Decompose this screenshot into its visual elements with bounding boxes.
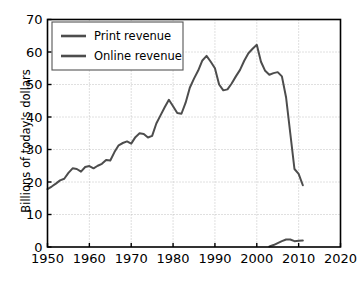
x-tick-label: 2020 xyxy=(324,251,357,266)
chart-legend[interactable]: Print revenueOnline revenue xyxy=(52,22,183,70)
y-tick-label: 40 xyxy=(26,110,43,125)
y-tick-label: 70 xyxy=(26,12,43,27)
y-tick-label: 0 xyxy=(34,240,42,255)
series-line-1 xyxy=(269,240,302,247)
x-tick-label: 1960 xyxy=(73,251,106,266)
plot-canvas: 1950196019701980199020002010202001020304… xyxy=(0,0,364,282)
chart-figure: Billions of today's dollars 195019601970… xyxy=(0,0,364,282)
y-tick-label: 20 xyxy=(26,175,43,190)
legend-label-1: Online revenue xyxy=(94,49,182,63)
x-tick-label: 2010 xyxy=(282,251,315,266)
legend-label-0: Print revenue xyxy=(94,29,171,43)
data-series-group xyxy=(48,45,303,247)
y-tick-label: 30 xyxy=(26,142,43,157)
x-tick-label: 1990 xyxy=(198,251,231,266)
y-tick-label: 10 xyxy=(26,207,43,222)
y-tick-label: 50 xyxy=(26,77,43,92)
x-tick-label: 1980 xyxy=(157,251,190,266)
x-tick-label: 2000 xyxy=(240,251,273,266)
y-tick-label: 60 xyxy=(26,45,43,60)
x-tick-label: 1970 xyxy=(115,251,148,266)
